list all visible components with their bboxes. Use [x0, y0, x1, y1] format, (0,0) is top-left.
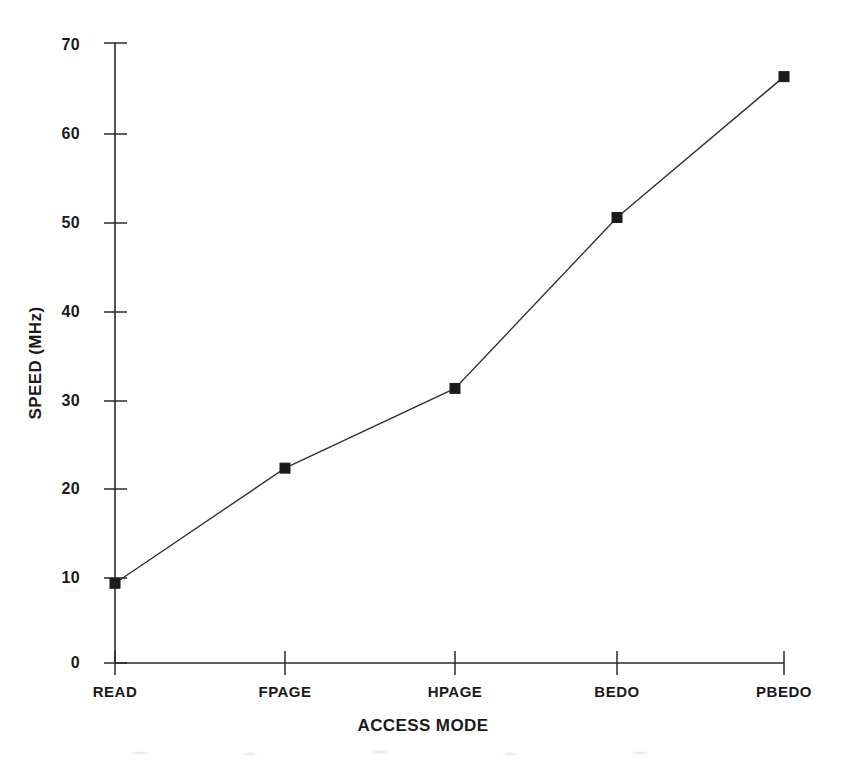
series-markers [110, 72, 789, 589]
data-point-bedo [612, 212, 622, 222]
data-point-read [110, 578, 120, 588]
series-line-speed [115, 77, 784, 584]
data-point-fpage [280, 463, 290, 473]
data-point-hpage [450, 383, 460, 393]
chart-figure: SPEED (MHz) ACCESS MODE 0 10 20 30 40 50… [0, 0, 846, 767]
data-point-pbedo [779, 72, 789, 82]
plot-area [0, 0, 846, 767]
scan-noise-artifact [120, 748, 740, 758]
